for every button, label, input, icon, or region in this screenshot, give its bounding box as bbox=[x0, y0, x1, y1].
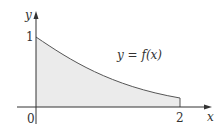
x-tick-2: 2 bbox=[176, 112, 184, 124]
x-axis-label: x bbox=[207, 111, 214, 123]
y-axis-label: y bbox=[25, 9, 32, 21]
chart-area: y 1 0 2 x y = f(x) bbox=[0, 0, 221, 132]
x-axis-arrow-icon bbox=[204, 105, 212, 110]
origin-label: 0 bbox=[27, 113, 35, 125]
curve-label: y = f(x) bbox=[117, 49, 162, 61]
y-tick-1: 1 bbox=[26, 31, 34, 43]
y-axis-arrow-icon bbox=[34, 11, 39, 19]
